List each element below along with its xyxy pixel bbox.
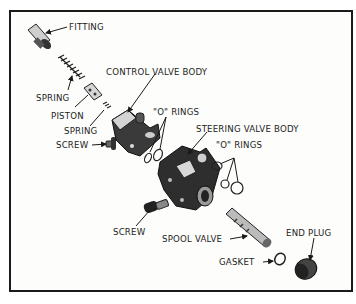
label-gasket: GASKET — [219, 258, 255, 267]
label-o-rings-2: "O" RINGS — [216, 141, 262, 150]
label-control-valve-body: CONTROL VALVE BODY — [106, 68, 207, 77]
screw-part — [106, 137, 116, 150]
fitting-part — [28, 24, 53, 51]
spool-valve-part — [226, 208, 273, 249]
control-screw-part — [136, 113, 144, 123]
label-end-plug: END PLUG — [286, 229, 331, 238]
label-spool-valve: SPOOL VALVE — [162, 235, 222, 244]
label-spring-2: SPRING — [64, 127, 97, 136]
spring-part — [58, 55, 85, 79]
gasket-part — [273, 251, 288, 266]
label-piston: PISTON — [51, 112, 84, 121]
label-o-rings-1: "O" RINGS — [153, 108, 199, 117]
label-screw: SCREW — [56, 141, 88, 150]
end-plug-part — [291, 255, 320, 283]
exploded-view-drawing — [0, 0, 356, 304]
piston-part — [84, 83, 102, 100]
label-fitting: FITTING — [69, 23, 104, 32]
label-spring: SPRING — [36, 94, 69, 103]
small-spring-part — [103, 102, 111, 108]
screw-2-part — [143, 199, 169, 214]
label-screw-2: SCREW — [113, 228, 145, 237]
label-steering-valve-body: STEERING VALVE BODY — [196, 125, 299, 134]
